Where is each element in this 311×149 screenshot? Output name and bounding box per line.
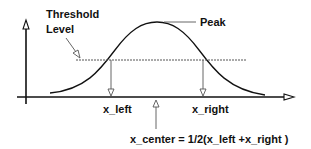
- x-center-arrow-icon: [153, 100, 159, 107]
- x-right-arrow-icon: [200, 89, 206, 96]
- x-axis-arrow-icon: [284, 94, 294, 100]
- x-center-formula: x_center = 1/2(x_left +x_right ): [130, 133, 289, 145]
- peak-label: Peak: [200, 16, 227, 28]
- y-axis: [23, 20, 29, 104]
- threshold-pointer-arrow-icon: [73, 50, 80, 58]
- peak-curve: [50, 22, 265, 95]
- x-left-marker: [108, 60, 114, 96]
- x-right-label: x_right: [192, 103, 229, 115]
- x-axis: [17, 94, 294, 100]
- x-left-arrow-icon: [108, 89, 114, 96]
- x-center-marker: [153, 100, 159, 129]
- x-right-marker: [200, 60, 206, 96]
- x-left-label: x_left: [103, 103, 132, 115]
- threshold-pointer: [66, 38, 80, 58]
- threshold-label-line1: Threshold: [46, 8, 99, 20]
- peak-threshold-diagram: Threshold Level Peak x_left x_right x_ce…: [0, 0, 311, 149]
- y-axis-arrow-icon: [23, 20, 29, 29]
- threshold-label-line2: Level: [46, 23, 74, 35]
